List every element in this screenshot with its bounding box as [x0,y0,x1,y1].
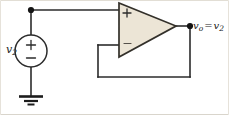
voltage-source-symbol [15,35,47,67]
output-equals-sign: = [203,20,213,31]
source-label-subscript: 2 [12,48,17,57]
circuit-schematic-svg [0,0,229,115]
circuit-diagram: v2 vo=v2 [0,0,229,115]
output-rhs-subscript: 2 [219,24,224,33]
opamp-symbol [119,3,176,57]
output-voltage-label: vo=v2 [193,21,224,33]
ground-icon [19,97,43,105]
node-dot-input [28,7,34,13]
source-voltage-label: v2 [6,44,17,57]
